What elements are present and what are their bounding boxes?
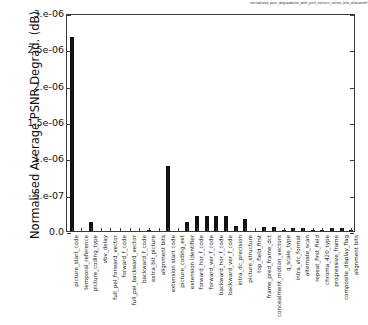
y-tick-label: 0.0 <box>6 226 64 237</box>
chart-figure: normalised_psnr_degradation_with_pmf_col… <box>0 0 368 325</box>
x-tick <box>351 228 352 231</box>
x-tick-label: alignment bits <box>160 235 166 275</box>
x-tick <box>303 228 304 231</box>
x-tick-label: full_pel_forward_vector <box>112 235 118 300</box>
y-tick-label: 1.5e-06 <box>6 117 64 128</box>
y-tick-right <box>350 233 354 234</box>
bar <box>70 37 74 231</box>
x-tick <box>264 228 265 231</box>
x-tick-label: alignment bits <box>353 235 359 275</box>
x-tick-label: frame_pred_frame_dct <box>266 235 272 298</box>
x-tick <box>197 228 198 231</box>
plot-area <box>66 14 355 232</box>
x-tick <box>149 228 150 231</box>
x-tick <box>101 228 102 231</box>
x-tick-label: alternate_scan <box>304 235 310 276</box>
y-tick <box>67 124 71 125</box>
y-tick <box>67 160 71 161</box>
x-tick <box>226 228 227 231</box>
figure-title: normalised_psnr_degradation_with_pmf_col… <box>250 1 368 5</box>
x-tick <box>81 228 82 231</box>
y-tick-label: 2.5e-06 <box>6 44 64 55</box>
x-tick-label: intra_dc_precision <box>237 235 243 285</box>
x-tick <box>342 228 343 231</box>
x-tick <box>293 228 294 231</box>
y-tick-right <box>350 160 354 161</box>
x-tick-label: vbv_delay <box>102 235 108 263</box>
x-tick <box>130 228 131 231</box>
y-tick-right <box>350 124 354 125</box>
y-tick-label: 3.e-06 <box>6 8 64 19</box>
y-tick-right <box>350 197 354 198</box>
x-tick <box>322 228 323 231</box>
x-tick <box>207 228 208 231</box>
x-tick-label: forward_hor_f_code <box>198 235 204 290</box>
x-tick-label: backward_ver_f_code <box>227 235 233 295</box>
y-tick <box>67 197 71 198</box>
x-tick <box>159 228 160 231</box>
x-tick <box>216 228 217 231</box>
y-tick-right <box>350 51 354 52</box>
x-tick-label: concealment_motion_vectors <box>276 235 282 317</box>
x-tick <box>168 228 169 231</box>
y-tick-label: 1.e-06 <box>6 153 64 164</box>
x-tick-label: extra_bit_picture <box>150 235 156 282</box>
x-tick <box>120 228 121 231</box>
x-tick-label: extension start code <box>170 235 176 292</box>
y-tick-right <box>350 88 354 89</box>
x-tick-label: forward_f_code <box>121 235 127 278</box>
x-tick-label: progressive_frame <box>333 235 339 287</box>
x-tick-label: intra_vlc_format <box>295 235 301 280</box>
x-tick-label: backward_hor_f_code <box>218 235 224 295</box>
y-tick <box>67 15 71 16</box>
x-tick <box>139 228 140 231</box>
bar <box>166 166 170 231</box>
x-tick-label: picture_coding_type <box>92 235 98 291</box>
x-tick-label: forward_ver_f_code <box>208 235 214 289</box>
y-tick <box>67 51 71 52</box>
x-tick <box>236 228 237 231</box>
bar-series <box>67 15 354 231</box>
x-tick <box>332 228 333 231</box>
x-tick-label: temporal_reference <box>83 235 89 290</box>
y-tick-right <box>350 15 354 16</box>
x-tick <box>313 228 314 231</box>
x-tick-label: picture_start_code <box>73 235 79 287</box>
x-tick <box>72 228 73 231</box>
x-tick-label: chroma_420_type <box>324 235 330 285</box>
x-tick-label: q_scale_type <box>285 235 291 271</box>
x-tick <box>110 228 111 231</box>
x-tick <box>284 228 285 231</box>
x-tick-label: extension identifier <box>189 235 195 289</box>
y-tick-label: 5.e-07 <box>6 190 64 201</box>
x-tick-label: top_field_first <box>256 235 262 273</box>
x-tick-label: picture_coding_ext <box>179 235 185 288</box>
x-tick-label: repeat_first_field <box>314 235 320 282</box>
x-tick <box>255 228 256 231</box>
x-tick-label: picture_structure <box>247 235 253 283</box>
y-tick <box>67 233 71 234</box>
x-tick <box>178 228 179 231</box>
x-tick <box>274 228 275 231</box>
y-tick <box>67 88 71 89</box>
x-tick-label: composite_display_flag <box>343 235 349 300</box>
x-tick-label: backward_f_code <box>141 235 147 283</box>
y-tick-label: 2.e-06 <box>6 81 64 92</box>
x-tick-label: full_pel_backward_vector <box>131 235 137 305</box>
x-tick <box>91 228 92 231</box>
x-tick <box>187 228 188 231</box>
x-tick <box>245 228 246 231</box>
